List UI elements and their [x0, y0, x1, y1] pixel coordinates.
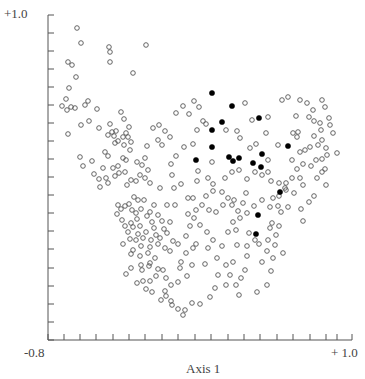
open-point: [303, 148, 308, 153]
open-point: [156, 267, 161, 272]
open-point: [174, 154, 179, 159]
open-point: [301, 219, 306, 224]
open-point: [121, 135, 126, 140]
open-point: [307, 200, 312, 205]
open-point: [178, 266, 183, 271]
open-point: [120, 218, 125, 223]
open-point: [65, 108, 70, 113]
open-point: [141, 279, 146, 284]
open-point: [103, 150, 108, 155]
open-point: [67, 86, 72, 91]
open-point: [198, 302, 203, 307]
open-point: [66, 60, 71, 65]
open-point: [207, 208, 212, 213]
x-axis-title: Axis 1: [186, 361, 220, 377]
open-point: [150, 220, 155, 225]
open-point: [115, 212, 120, 217]
open-point: [75, 26, 80, 31]
open-point: [265, 249, 270, 254]
open-point: [271, 256, 276, 261]
open-point: [325, 153, 330, 158]
open-point: [117, 171, 122, 176]
open-point: [318, 121, 323, 126]
open-point: [204, 194, 209, 199]
open-point: [320, 138, 325, 143]
open-point: [123, 204, 128, 209]
open-point: [169, 162, 174, 167]
open-point: [253, 170, 258, 175]
open-point: [74, 75, 79, 80]
open-point: [141, 236, 146, 241]
open-point: [139, 244, 144, 249]
open-point: [268, 205, 273, 210]
open-point: [131, 71, 136, 76]
open-point: [191, 246, 196, 251]
open-point: [125, 183, 130, 188]
open-point: [129, 266, 134, 271]
open-point: [280, 98, 285, 103]
open-point: [129, 178, 134, 183]
open-point: [148, 279, 153, 284]
open-point: [143, 176, 148, 181]
open-point: [162, 227, 167, 232]
open-point: [266, 158, 271, 163]
open-point: [312, 119, 317, 124]
open-point: [134, 211, 139, 216]
open-point: [226, 196, 231, 201]
open-point: [315, 176, 320, 181]
open-point: [142, 198, 147, 203]
open-point: [273, 243, 278, 248]
open-point: [183, 308, 188, 313]
open-point: [312, 194, 317, 199]
open-point: [271, 196, 276, 201]
open-point: [190, 301, 195, 306]
open-point: [290, 158, 295, 163]
open-point: [154, 274, 159, 279]
open-point: [181, 313, 186, 318]
open-point: [152, 203, 157, 208]
open-point: [122, 117, 127, 122]
open-point: [311, 108, 316, 113]
open-point: [190, 263, 195, 268]
open-point: [108, 60, 113, 65]
open-point: [250, 118, 255, 123]
open-point: [236, 209, 241, 214]
open-point: [164, 276, 169, 281]
open-point: [252, 204, 257, 209]
filled-point: [255, 212, 260, 217]
open-point: [179, 260, 184, 265]
filled-point: [256, 115, 261, 120]
open-point: [154, 233, 159, 238]
open-point: [237, 168, 242, 173]
open-point: [83, 103, 88, 108]
open-point: [245, 254, 250, 259]
open-point: [253, 238, 258, 243]
open-point: [216, 273, 221, 278]
open-point: [265, 283, 270, 288]
filled-point: [285, 143, 290, 148]
open-point: [123, 224, 128, 229]
open-point: [187, 112, 192, 117]
open-point: [158, 236, 163, 241]
open-point: [223, 176, 228, 181]
open-point: [185, 274, 190, 279]
open-point: [148, 261, 153, 266]
open-point: [281, 251, 286, 256]
filled-point: [209, 144, 214, 149]
open-point: [182, 145, 187, 150]
open-point: [215, 256, 220, 261]
open-point: [64, 97, 69, 102]
open-point: [157, 123, 162, 128]
open-point: [148, 245, 153, 250]
scatter-plot: [0, 0, 365, 379]
open-point: [238, 216, 243, 221]
open-point: [192, 216, 197, 221]
open-circle-series: [60, 26, 340, 318]
open-point: [224, 263, 229, 268]
open-point: [296, 130, 301, 135]
open-point: [140, 163, 145, 168]
open-point: [220, 244, 225, 249]
open-point: [95, 107, 100, 112]
open-point: [122, 143, 127, 148]
open-point: [116, 164, 121, 169]
